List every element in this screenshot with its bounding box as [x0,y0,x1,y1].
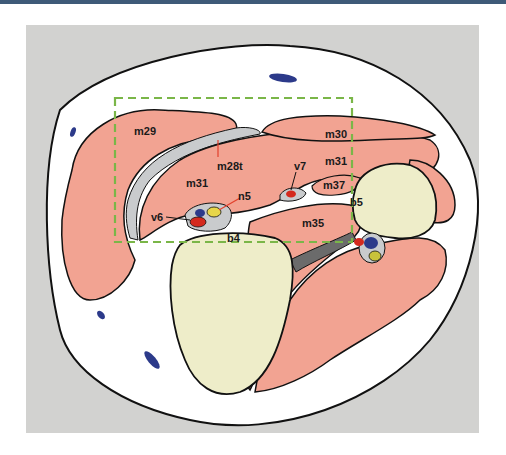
nerve-n5 [207,207,221,217]
label-b4: b4 [227,232,241,244]
label-v6: v6 [151,211,163,223]
label-m29: m29 [134,125,156,137]
label-v7: v7 [294,160,306,172]
bone-b5 [353,164,437,239]
vein-v6-blue [195,209,205,217]
label-b5: b5 [350,196,363,208]
label-m37: m37 [323,179,345,191]
vessel-v7 [286,191,296,198]
label-m28t: m28t [217,160,243,172]
label-m35: m35 [302,217,324,229]
label-m30: m30 [325,128,347,140]
artery-right [354,238,364,246]
label-m31-center: m31 [186,177,208,189]
label-m31-right: m31 [325,155,347,167]
anatomy-cross-section: m29 m28t m30 m31 m31 v7 m37 n5 v6 b5 m35… [0,0,506,455]
nerve-right [369,251,381,261]
label-n5: n5 [238,190,251,202]
artery-v6 [190,217,206,227]
vein-right [364,237,378,249]
